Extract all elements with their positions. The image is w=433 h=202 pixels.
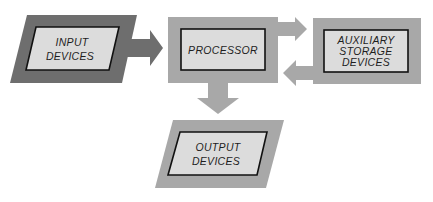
output-devices-node: OUTPUT DEVICES — [155, 120, 284, 188]
processor-label: PROCESSOR — [188, 44, 258, 56]
input-label-line1: INPUT — [56, 36, 90, 48]
processor-node: PROCESSOR — [168, 17, 278, 83]
computer-system-diagram: INPUT DEVICES PROCESSOR AUXILIARY STORAG… — [0, 0, 433, 202]
input-label-line2: DEVICES — [46, 50, 94, 62]
auxiliary-label-line3: DEVICES — [342, 56, 390, 68]
output-label-line2: DEVICES — [192, 155, 240, 167]
output-label-line1: OUTPUT — [196, 141, 242, 153]
arrow-auxiliary-to-processor-icon — [283, 60, 313, 86]
output-inner-box — [168, 132, 267, 175]
arrow-processor-to-output-icon — [197, 83, 239, 114]
input-devices-node: INPUT DEVICES — [10, 15, 137, 83]
arrow-processor-to-auxiliary-icon — [278, 17, 307, 41]
input-inner-box — [26, 27, 119, 70]
auxiliary-storage-node: AUXILIARY STORAGE DEVICES — [313, 18, 421, 84]
